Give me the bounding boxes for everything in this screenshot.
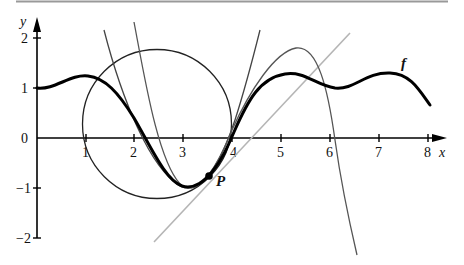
x-tick-7: 7: [375, 145, 382, 160]
x-tick-5: 5: [277, 145, 284, 160]
x-axis-arrow-icon: [432, 134, 447, 142]
function-f-label: f: [401, 55, 408, 71]
x-axis-label: x: [438, 145, 446, 160]
y-tick-0: 0: [21, 131, 28, 146]
x-tick-3: 3: [179, 145, 186, 160]
function-f-curve: [37, 73, 430, 187]
x-tick-6: 6: [326, 145, 333, 160]
function-approximation-diagram: 1 2 3 4 5 6 7 8 x 2 1 0 −1 −2 y P f: [0, 0, 464, 265]
y-axis-arrow-icon: [33, 17, 41, 32]
point-p-marker: [205, 172, 213, 180]
point-p-label: P: [216, 173, 226, 189]
x-tick-8: 8: [424, 145, 431, 160]
y-tick-1: 1: [21, 81, 28, 96]
x-tick-2: 2: [130, 145, 137, 160]
y-tick-minus-1: −1: [16, 181, 31, 196]
y-axis-label: y: [18, 14, 27, 29]
y-tick-minus-2: −2: [16, 231, 31, 246]
y-tick-2: 2: [21, 31, 28, 46]
